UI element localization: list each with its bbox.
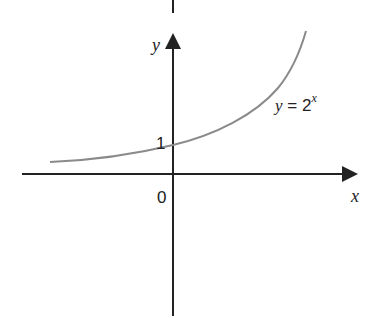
x-axis-arrow-icon xyxy=(342,166,358,182)
curve-label-eq: = 2 xyxy=(283,96,312,115)
curve-label: y = 2x xyxy=(273,91,317,115)
y-axis-label: y xyxy=(150,35,160,55)
intercept-label: 1 xyxy=(156,134,165,153)
curve-label-exponent: x xyxy=(310,91,317,105)
x-axis-label: x xyxy=(350,186,359,206)
y-axis-arrow-icon xyxy=(165,33,181,49)
curve-label-y: y xyxy=(273,96,283,115)
origin-label: 0 xyxy=(157,188,166,207)
exponential-graph: y x 0 1 y = 2x xyxy=(0,0,386,318)
exponential-curve xyxy=(50,31,306,162)
